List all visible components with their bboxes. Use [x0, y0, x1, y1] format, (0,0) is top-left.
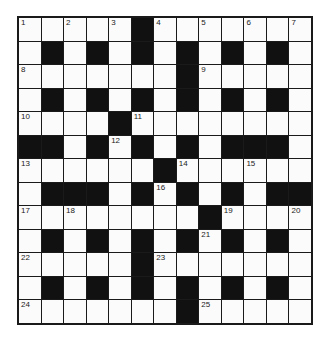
crossword-cell[interactable] [64, 65, 86, 88]
crossword-cell[interactable] [199, 89, 221, 112]
crossword-cell[interactable]: 9 [199, 65, 221, 88]
crossword-cell[interactable]: 14 [177, 159, 199, 182]
crossword-cell[interactable] [132, 65, 154, 88]
crossword-cell[interactable]: 10 [19, 112, 41, 135]
crossword-cell[interactable] [267, 65, 289, 88]
crossword-cell[interactable]: 4 [154, 18, 176, 41]
crossword-cell[interactable] [19, 230, 41, 253]
crossword-cell[interactable] [64, 42, 86, 65]
crossword-cell[interactable] [222, 18, 244, 41]
crossword-cell[interactable] [244, 206, 266, 229]
crossword-cell[interactable] [42, 159, 64, 182]
crossword-cell[interactable]: 16 [154, 183, 176, 206]
crossword-cell[interactable] [42, 65, 64, 88]
crossword-cell[interactable] [109, 89, 131, 112]
crossword-cell[interactable] [222, 112, 244, 135]
crossword-cell[interactable] [64, 277, 86, 300]
crossword-cell[interactable] [64, 159, 86, 182]
crossword-cell[interactable] [19, 42, 41, 65]
crossword-cell[interactable]: 21 [199, 230, 221, 253]
crossword-cell[interactable] [199, 112, 221, 135]
crossword-cell[interactable] [154, 89, 176, 112]
crossword-cell[interactable]: 15 [244, 159, 266, 182]
crossword-cell[interactable] [87, 300, 109, 323]
crossword-cell[interactable] [289, 89, 311, 112]
crossword-cell[interactable] [87, 206, 109, 229]
crossword-cell[interactable] [244, 277, 266, 300]
crossword-cell[interactable] [42, 253, 64, 276]
crossword-cell[interactable] [132, 206, 154, 229]
crossword-cell[interactable]: 7 [289, 18, 311, 41]
crossword-cell[interactable] [154, 65, 176, 88]
crossword-cell[interactable] [267, 18, 289, 41]
crossword-cell[interactable] [199, 253, 221, 276]
crossword-cell[interactable]: 20 [289, 206, 311, 229]
crossword-cell[interactable]: 19 [222, 206, 244, 229]
crossword-cell[interactable] [154, 42, 176, 65]
crossword-cell[interactable] [199, 277, 221, 300]
crossword-cell[interactable] [244, 183, 266, 206]
crossword-cell[interactable] [109, 183, 131, 206]
crossword-cell[interactable] [109, 277, 131, 300]
crossword-cell[interactable]: 3 [109, 18, 131, 41]
crossword-cell[interactable] [109, 159, 131, 182]
crossword-cell[interactable]: 25 [199, 300, 221, 323]
crossword-cell[interactable] [64, 300, 86, 323]
crossword-cell[interactable] [87, 65, 109, 88]
crossword-cell[interactable] [87, 159, 109, 182]
crossword-cell[interactable] [199, 42, 221, 65]
crossword-cell[interactable] [177, 206, 199, 229]
crossword-cell[interactable] [64, 253, 86, 276]
crossword-cell[interactable] [132, 300, 154, 323]
crossword-cell[interactable] [289, 253, 311, 276]
crossword-cell[interactable] [244, 112, 266, 135]
crossword-cell[interactable] [154, 277, 176, 300]
crossword-cell[interactable] [244, 230, 266, 253]
crossword-cell[interactable]: 2 [64, 18, 86, 41]
crossword-cell[interactable] [109, 65, 131, 88]
crossword-cell[interactable] [289, 159, 311, 182]
crossword-cell[interactable] [64, 89, 86, 112]
crossword-cell[interactable]: 22 [19, 253, 41, 276]
crossword-cell[interactable] [154, 206, 176, 229]
crossword-cell[interactable] [87, 112, 109, 135]
crossword-cell[interactable] [267, 206, 289, 229]
crossword-cell[interactable] [244, 89, 266, 112]
crossword-cell[interactable] [64, 112, 86, 135]
crossword-cell[interactable]: 17 [19, 206, 41, 229]
crossword-cell[interactable] [64, 230, 86, 253]
crossword-cell[interactable]: 1 [19, 18, 41, 41]
crossword-cell[interactable] [289, 112, 311, 135]
crossword-cell[interactable]: 24 [19, 300, 41, 323]
crossword-cell[interactable] [177, 18, 199, 41]
crossword-cell[interactable] [177, 112, 199, 135]
crossword-cell[interactable] [289, 65, 311, 88]
crossword-cell[interactable] [19, 277, 41, 300]
crossword-cell[interactable] [177, 253, 199, 276]
crossword-cell[interactable] [132, 159, 154, 182]
crossword-cell[interactable] [267, 300, 289, 323]
crossword-cell[interactable]: 5 [199, 18, 221, 41]
crossword-cell[interactable] [244, 300, 266, 323]
crossword-cell[interactable]: 23 [154, 253, 176, 276]
crossword-cell[interactable] [244, 65, 266, 88]
crossword-cell[interactable] [42, 18, 64, 41]
crossword-cell[interactable] [289, 277, 311, 300]
crossword-cell[interactable] [289, 136, 311, 159]
crossword-cell[interactable]: 12 [109, 136, 131, 159]
crossword-cell[interactable]: 8 [19, 65, 41, 88]
crossword-cell[interactable] [87, 18, 109, 41]
crossword-cell[interactable] [154, 300, 176, 323]
crossword-cell[interactable]: 11 [132, 112, 154, 135]
crossword-cell[interactable] [42, 206, 64, 229]
crossword-cell[interactable] [64, 136, 86, 159]
crossword-cell[interactable] [154, 230, 176, 253]
crossword-cell[interactable] [222, 65, 244, 88]
crossword-cell[interactable] [109, 42, 131, 65]
crossword-cell[interactable] [199, 136, 221, 159]
crossword-cell[interactable] [222, 253, 244, 276]
crossword-cell[interactable] [154, 136, 176, 159]
crossword-cell[interactable] [244, 253, 266, 276]
crossword-cell[interactable] [199, 183, 221, 206]
crossword-cell[interactable] [42, 112, 64, 135]
